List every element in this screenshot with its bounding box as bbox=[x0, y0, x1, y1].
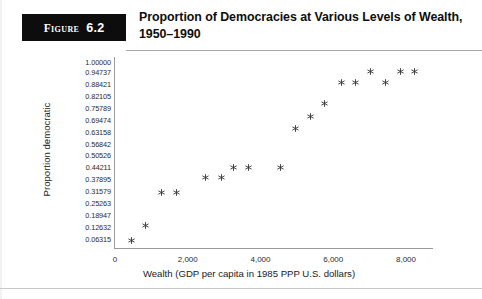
data-point bbox=[292, 125, 299, 132]
x-axis-title-text: Wealth (GDP per capita in 1985 PPP U.S. … bbox=[143, 268, 355, 279]
data-point bbox=[218, 174, 225, 181]
figure-badge-number: 6.2 bbox=[86, 21, 104, 35]
data-point bbox=[173, 189, 180, 196]
figure-title: Proportion of Democracies at Various Lev… bbox=[139, 9, 469, 42]
x-axis-tick-label: 0 bbox=[113, 255, 117, 264]
title-divider bbox=[126, 50, 482, 51]
plot-area bbox=[115, 58, 432, 248]
data-point bbox=[367, 68, 374, 75]
figure-number-badge: Figure 6.2 bbox=[22, 14, 126, 41]
data-point bbox=[321, 100, 328, 107]
x-axis-tick-label: 2,000 bbox=[178, 255, 198, 264]
data-point bbox=[411, 68, 418, 75]
x-axis-tick-label: 8,000 bbox=[396, 255, 416, 264]
data-point bbox=[230, 164, 237, 171]
data-point bbox=[158, 189, 165, 196]
y-axis-title: Proportion democratic bbox=[41, 80, 52, 220]
figure-header: Figure 6.2 Proportion of Democracies at … bbox=[0, 0, 482, 52]
data-point bbox=[338, 79, 345, 86]
figure-badge-word: Figure bbox=[44, 22, 80, 34]
data-point bbox=[397, 68, 404, 75]
data-point bbox=[202, 174, 209, 181]
data-point bbox=[128, 237, 135, 244]
data-point bbox=[352, 79, 359, 86]
data-point bbox=[307, 113, 314, 120]
x-axis-tick-label: 6,000 bbox=[323, 255, 343, 264]
data-point bbox=[142, 222, 149, 229]
data-point bbox=[277, 164, 284, 171]
x-axis-title: Wealth (GDP per capita in 1985 PPP U.S. … bbox=[0, 268, 482, 279]
x-axis-tick-label: 4,000 bbox=[250, 255, 270, 264]
page-bottom-divider bbox=[0, 288, 482, 289]
scatter-chart: 1.000000.947370.884210.821050.757890.694… bbox=[0, 52, 482, 299]
data-point bbox=[245, 164, 252, 171]
data-point bbox=[382, 79, 389, 86]
